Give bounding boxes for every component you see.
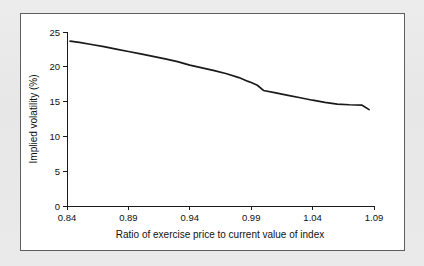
x-tick-label-0.99: 0.99 xyxy=(242,212,261,223)
y-tick-label-25: 25 xyxy=(49,27,60,38)
y-tick-label-5: 5 xyxy=(55,166,60,177)
y-tick-label-10: 10 xyxy=(49,131,60,142)
y-axis-title: Implied volatility (%) xyxy=(28,75,39,164)
x-tick-label-0.84: 0.84 xyxy=(58,212,77,223)
y-tick-label-0: 0 xyxy=(55,201,60,212)
y-tick-label-20: 20 xyxy=(49,61,60,72)
x-tick-label-0.94: 0.94 xyxy=(181,212,200,223)
y-tick-label-15: 15 xyxy=(49,96,60,107)
x-axis-title: Ratio of exercise price to current value… xyxy=(116,229,324,240)
x-tick-label-1.04: 1.04 xyxy=(303,212,322,223)
y-axis-ticks xyxy=(63,32,67,206)
chart-axes xyxy=(67,32,374,206)
chart-plot-area: 0510152025 0.840.890.940.991.041.09 Rati… xyxy=(21,14,406,252)
page-container: 0510152025 0.840.890.940.991.041.09 Rati… xyxy=(0,0,424,266)
y-axis-tick-labels: 0510152025 xyxy=(49,27,60,212)
figure-frame: 0510152025 0.840.890.940.991.041.09 Rati… xyxy=(20,13,405,251)
implied-volatility-series-line xyxy=(70,41,369,110)
implied-volatility-chart: 0510152025 0.840.890.940.991.041.09 Rati… xyxy=(21,14,406,252)
x-axis-tick-labels: 0.840.890.940.991.041.09 xyxy=(58,212,384,223)
x-tick-label-1.09: 1.09 xyxy=(365,212,384,223)
x-tick-label-0.89: 0.89 xyxy=(119,212,137,223)
x-axis-ticks xyxy=(67,206,374,210)
